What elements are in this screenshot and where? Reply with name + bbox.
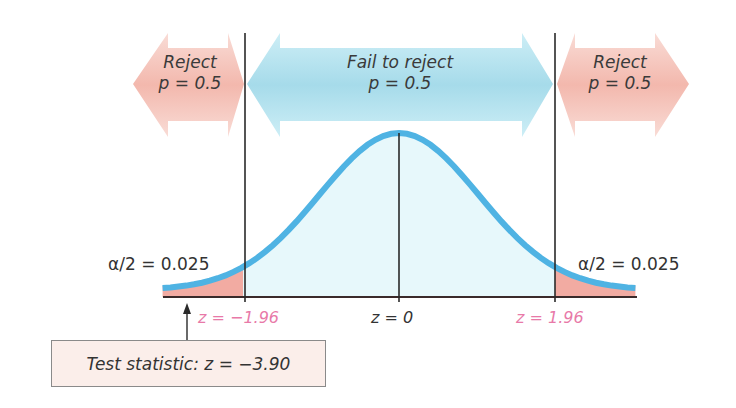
critical-value-right-label: z = 1.96 — [516, 310, 584, 326]
test-statistic-label: Test statistic: z = −3.90 — [87, 354, 291, 374]
right-tail-label: α/2 = 0.025 — [578, 256, 679, 273]
center-z-label: z = 0 — [371, 310, 413, 326]
critical-value-left-label: z = −1.96 — [198, 310, 279, 326]
reject-left-p: p = 0.5 — [150, 73, 230, 94]
reject-left-title: Reject — [150, 52, 230, 73]
hypothesis-test-diagram: Reject p = 0.5 Fail to reject p = 0.5 Re… — [0, 0, 736, 408]
fail-to-reject-label: Fail to reject p = 0.5 — [300, 52, 500, 95]
arrowhead-icon — [183, 303, 191, 314]
left-tail-label: α/2 = 0.025 — [108, 256, 209, 273]
reject-left-label: Reject p = 0.5 — [150, 52, 230, 95]
reject-right-p: p = 0.5 — [580, 73, 660, 94]
reject-right-title: Reject — [580, 52, 660, 73]
reject-right-label: Reject p = 0.5 — [580, 52, 660, 95]
test-statistic-box: Test statistic: z = −3.90 — [51, 340, 326, 387]
fail-to-reject-p: p = 0.5 — [300, 73, 500, 94]
fail-to-reject-title: Fail to reject — [300, 52, 500, 73]
